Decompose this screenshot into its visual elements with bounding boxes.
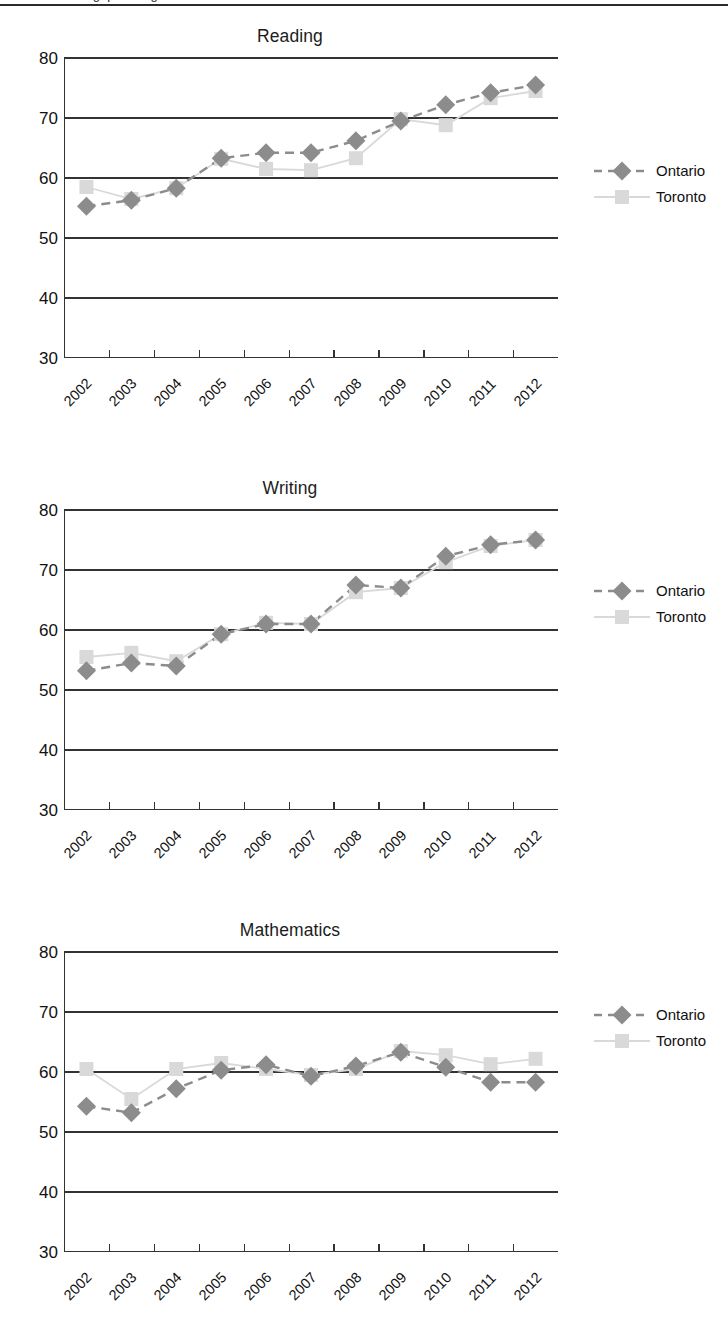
x-tick-mark (513, 350, 514, 358)
y-axis-ticks: 807060504030 (12, 952, 58, 1252)
x-tick-label: 2006 (241, 827, 275, 861)
legend-label: Toronto (656, 1032, 706, 1049)
x-tick-mark (244, 802, 245, 810)
y-tick-label: 70 (16, 110, 58, 127)
plot-canvas (64, 952, 558, 1252)
x-tick-mark (199, 1244, 200, 1252)
y-tick-label: 30 (16, 1244, 58, 1261)
y-tick-label: 40 (16, 742, 58, 759)
legend-writing: OntarioToronto (594, 578, 728, 630)
chart-title: Writing (0, 478, 580, 499)
legend-diamond-icon (594, 158, 650, 184)
y-tick-label: 50 (16, 1124, 58, 1141)
legend-item-toronto[interactable]: Toronto (594, 604, 728, 630)
y-tick-label: 60 (16, 622, 58, 639)
legend-diamond-icon (594, 1002, 650, 1028)
legend-label: Toronto (656, 608, 706, 625)
x-tick-mark (109, 802, 110, 810)
chart-title: Reading (0, 26, 580, 47)
plot-area-mathematics: 807060504030 (0, 952, 580, 1252)
x-tick-mark (468, 1244, 469, 1252)
x-tick-mark (468, 350, 469, 358)
y-tick-label: 40 (16, 1184, 58, 1201)
x-tick-label: 2011 (465, 376, 498, 409)
x-tick-mark (154, 1244, 155, 1252)
x-tick-mark (244, 1244, 245, 1252)
legend-item-ontario[interactable]: Ontario (594, 578, 728, 604)
x-tick-mark (423, 350, 424, 358)
x-tick-label: 2002 (61, 375, 95, 409)
x-tick-mark (333, 350, 334, 358)
x-tick-label: 2003 (106, 375, 140, 409)
x-axis-labels: 2002200320042005200620072008200920102011… (64, 1254, 706, 1314)
y-tick-label: 50 (16, 682, 58, 699)
x-tick-label: 2004 (151, 827, 185, 861)
legend-label: Toronto (656, 188, 706, 205)
series-layer (64, 510, 558, 810)
x-tick-label: 2010 (420, 375, 454, 409)
legend-diamond-icon (594, 578, 650, 604)
x-tick-label: 2008 (330, 827, 364, 861)
y-tick-label: 70 (16, 1004, 58, 1021)
legend-square-icon (594, 1028, 650, 1054)
data-point-square-marker (615, 1034, 629, 1048)
header-divider (0, 4, 728, 6)
x-tick-mark (109, 350, 110, 358)
data-point-square-marker (529, 1052, 543, 1066)
data-point-diamond-marker (436, 95, 455, 114)
x-tick-label: 2011 (465, 828, 498, 861)
data-point-square-marker (259, 162, 273, 176)
y-tick-label: 50 (16, 230, 58, 247)
legend-square-icon (594, 604, 650, 630)
x-tick-mark (423, 1244, 424, 1252)
series-layer (64, 952, 558, 1252)
x-tick-label: 2007 (286, 827, 320, 861)
legend-mathematics: OntarioToronto (594, 1002, 728, 1054)
x-tick-label: 2003 (106, 1269, 140, 1303)
data-point-square-marker (79, 1062, 93, 1076)
data-point-diamond-marker (77, 1097, 96, 1116)
legend-item-toronto[interactable]: Toronto (594, 184, 728, 210)
x-tick-mark (154, 802, 155, 810)
y-tick-label: 60 (16, 170, 58, 187)
data-point-diamond-marker (77, 661, 96, 680)
legend-item-ontario[interactable]: Ontario (594, 1002, 728, 1028)
x-tick-mark (378, 802, 379, 810)
x-tick-label: 2006 (241, 1269, 275, 1303)
x-tick-label: 2007 (286, 375, 320, 409)
x-tick-mark (468, 802, 469, 810)
data-point-square-marker (439, 118, 453, 132)
chart-title: Mathematics (0, 920, 580, 941)
page-header-strip: Achievement gap among students (0, 0, 728, 6)
x-tick-label: 2005 (196, 827, 230, 861)
data-point-diamond-marker (526, 1073, 545, 1092)
y-tick-label: 30 (16, 802, 58, 819)
y-tick-label: 80 (16, 944, 58, 961)
data-point-diamond-marker (613, 582, 632, 601)
legend-item-toronto[interactable]: Toronto (594, 1028, 728, 1054)
x-tick-mark (289, 1244, 290, 1252)
x-tick-label: 2008 (330, 375, 364, 409)
y-tick-label: 40 (16, 290, 58, 307)
x-tick-label: 2007 (286, 1269, 320, 1303)
y-tick-label: 60 (16, 1064, 58, 1081)
x-tick-label: 2010 (420, 1269, 454, 1303)
page-header-text: Achievement gap among students (14, 0, 211, 2)
data-point-diamond-marker (257, 143, 276, 162)
data-point-diamond-marker (613, 1006, 632, 1025)
plot-canvas (64, 58, 558, 358)
x-tick-label: 2008 (330, 1269, 364, 1303)
x-tick-label: 2005 (196, 1269, 230, 1303)
x-tick-label: 2009 (375, 1269, 409, 1303)
x-tick-label: 2009 (375, 375, 409, 409)
x-tick-label: 2002 (61, 1269, 95, 1303)
legend-item-ontario[interactable]: Ontario (594, 158, 728, 184)
plot-area-reading: 807060504030 (0, 58, 580, 358)
data-point-square-marker (349, 151, 363, 165)
y-axis-ticks: 807060504030 (12, 58, 58, 358)
data-point-square-marker (615, 190, 629, 204)
x-tick-mark (333, 802, 334, 810)
x-tick-label: 2004 (151, 375, 185, 409)
x-tick-label: 2004 (151, 1269, 185, 1303)
x-tick-mark (289, 802, 290, 810)
